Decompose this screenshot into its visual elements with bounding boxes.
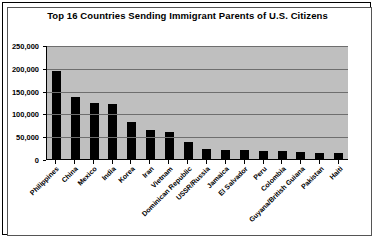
- x-axis-label-slot: Korea: [122, 164, 141, 236]
- bar-slot: [179, 46, 198, 159]
- bar[interactable]: [127, 122, 136, 159]
- x-axis-label-slot: El Salvador: [235, 164, 254, 236]
- bar[interactable]: [165, 132, 174, 159]
- x-axis-label-slot: Jamaica: [216, 164, 235, 236]
- bar[interactable]: [108, 104, 117, 159]
- bar-slot: [310, 46, 329, 159]
- y-axis-tick-label: 150,000: [12, 87, 39, 96]
- bar[interactable]: [90, 103, 99, 159]
- gridline: [47, 92, 348, 93]
- bar[interactable]: [184, 142, 193, 159]
- y-axis: 050,000100,000150,000200,000250,000: [0, 40, 44, 166]
- chart-title: Top 16 Countries Sending Immigrant Paren…: [0, 10, 375, 21]
- y-axis-tick-label: 100,000: [12, 110, 39, 119]
- bar[interactable]: [278, 151, 287, 159]
- bar[interactable]: [259, 151, 268, 159]
- x-axis-label-slot: China: [65, 164, 84, 236]
- gridline: [47, 46, 348, 47]
- x-axis-category-label: India: [101, 165, 118, 182]
- x-axis-category-label: Haiti: [328, 165, 344, 181]
- bar[interactable]: [221, 150, 230, 159]
- bar-slot: [160, 46, 179, 159]
- y-axis-tick-label: 200,000: [12, 64, 39, 73]
- bar-slot: [122, 46, 141, 159]
- bar-slot: [66, 46, 85, 159]
- y-axis-tick-label: 250,000: [12, 42, 39, 51]
- bar[interactable]: [334, 153, 343, 159]
- gridline: [47, 69, 348, 70]
- x-axis-labels: PhilippinesChinaMexicoIndiaKoreaIranViet…: [46, 164, 348, 236]
- x-axis-category-label: Iran: [141, 165, 155, 179]
- bar-slot: [198, 46, 217, 159]
- y-axis-tick-label: 50,000: [16, 133, 39, 142]
- bar-slot: [216, 46, 235, 159]
- x-axis-label-slot: Pakistan: [310, 164, 329, 236]
- x-axis-label-slot: Philippines: [46, 164, 65, 236]
- bar-slot: [235, 46, 254, 159]
- x-axis-label-slot: Mexico: [84, 164, 103, 236]
- bar[interactable]: [71, 97, 80, 159]
- bar-slot: [141, 46, 160, 159]
- x-axis-category-label: Peru: [252, 165, 268, 181]
- bar-slot: [85, 46, 104, 159]
- bar[interactable]: [240, 150, 249, 159]
- x-axis-label-slot: India: [103, 164, 122, 236]
- x-axis-label-slot: Dominican Republic: [178, 164, 197, 236]
- bar-slot: [329, 46, 348, 159]
- bar[interactable]: [202, 149, 211, 159]
- bar-slot: [273, 46, 292, 159]
- x-axis-label-slot: USSR/Russia: [197, 164, 216, 236]
- bar-slot: [292, 46, 311, 159]
- bar-slot: [47, 46, 66, 159]
- bar-slot: [103, 46, 122, 159]
- bar-series: [47, 46, 348, 159]
- x-axis-label-slot: Guyana/British Guiana: [291, 164, 310, 236]
- gridline: [47, 137, 348, 138]
- plot-area: [46, 46, 348, 160]
- bar[interactable]: [146, 130, 155, 159]
- y-axis-tick-label: 0: [35, 156, 39, 165]
- bar[interactable]: [296, 152, 305, 159]
- gridline: [47, 114, 348, 115]
- bar[interactable]: [315, 153, 324, 159]
- bar-slot: [254, 46, 273, 159]
- x-axis-label-slot: Haiti: [329, 164, 348, 236]
